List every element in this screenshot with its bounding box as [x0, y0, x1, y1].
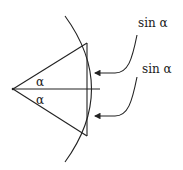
- lower-leader-arrow: [95, 77, 137, 116]
- upper-leader-arrow: [95, 35, 137, 73]
- center-point: [12, 88, 15, 91]
- sin-label-upper: sin α: [138, 16, 168, 30]
- angle-label-upper: α: [36, 75, 44, 89]
- angle-label-lower: α: [36, 93, 44, 107]
- unit-circle-sine-diagram: α α sin α sin α: [0, 0, 183, 170]
- upper-radius: [13, 43, 87, 89]
- sin-label-lower: sin α: [142, 62, 172, 76]
- lower-radius: [13, 89, 87, 136]
